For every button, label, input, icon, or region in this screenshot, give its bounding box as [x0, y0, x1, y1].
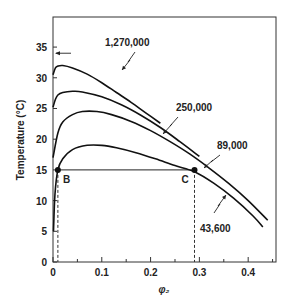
point-label: C	[182, 174, 189, 185]
y-tick-label: 15	[36, 165, 48, 176]
series-label: 1,270,000	[105, 37, 150, 48]
x-tick-label: 0	[50, 267, 56, 278]
y-tick-label: 20	[36, 134, 48, 145]
y-axis-label: Temperature (°C)	[15, 100, 26, 181]
y-tick-label: 10	[36, 196, 48, 207]
curve-43600	[53, 145, 262, 231]
x-tick-label: 0.4	[241, 267, 255, 278]
y-tick-label: 35	[36, 42, 48, 53]
series-label: 250,000	[176, 102, 213, 113]
y-tick-label: 25	[36, 103, 48, 114]
x-tick-label: 0.3	[192, 267, 206, 278]
y-tick-label: 5	[41, 226, 47, 237]
x-axis-label: φ₂	[159, 284, 170, 295]
axis-ticks	[53, 47, 273, 262]
point-label: B	[63, 174, 70, 185]
point-B	[55, 167, 61, 173]
series-label: 43,600	[200, 223, 231, 234]
tick-labels: 00.10.20.30.405101520253035	[36, 42, 256, 278]
series-label: 89,000	[217, 140, 248, 151]
left-arrowhead	[55, 51, 60, 55]
y-tick-label: 30	[36, 73, 48, 84]
guide-lines	[58, 170, 195, 262]
point-C	[192, 167, 198, 173]
leader-arrowhead	[222, 195, 226, 199]
chart: 00.10.20.30.405101520253035 1,270,000250…	[0, 0, 290, 302]
x-tick-label: 0.1	[95, 267, 109, 278]
curve-1270000	[53, 65, 160, 123]
x-tick-label: 0.2	[144, 267, 158, 278]
annotations: 1,270,000250,00089,00043,600	[55, 37, 248, 234]
y-tick-label: 0	[41, 257, 47, 268]
